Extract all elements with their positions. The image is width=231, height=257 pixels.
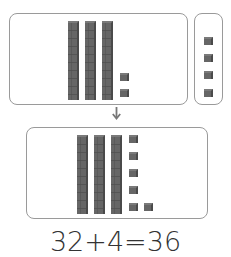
panel-thirty-six bbox=[26, 127, 208, 219]
ones-cube bbox=[129, 186, 138, 194]
ones-cube bbox=[144, 203, 153, 211]
ones-cube bbox=[129, 152, 138, 160]
ones-cube bbox=[129, 135, 138, 143]
ones-cube bbox=[204, 54, 213, 62]
ones-cube bbox=[129, 169, 138, 177]
panel-thirty-two bbox=[9, 13, 188, 105]
ones-cube bbox=[129, 203, 138, 211]
tens-rod bbox=[102, 21, 113, 100]
ones-cube bbox=[204, 71, 213, 79]
ones-cube bbox=[120, 73, 129, 81]
ones-cube bbox=[204, 37, 213, 45]
equation: 32+4=36 bbox=[0, 226, 231, 257]
tens-rod bbox=[77, 135, 88, 214]
tens-rod bbox=[68, 21, 79, 100]
down-arrow-icon bbox=[112, 107, 121, 120]
panel-four bbox=[194, 13, 223, 105]
ones-cube bbox=[204, 89, 213, 97]
tens-rod bbox=[94, 135, 105, 214]
tens-rod bbox=[85, 21, 96, 100]
tens-rod bbox=[111, 135, 122, 214]
ones-cube bbox=[120, 89, 129, 97]
